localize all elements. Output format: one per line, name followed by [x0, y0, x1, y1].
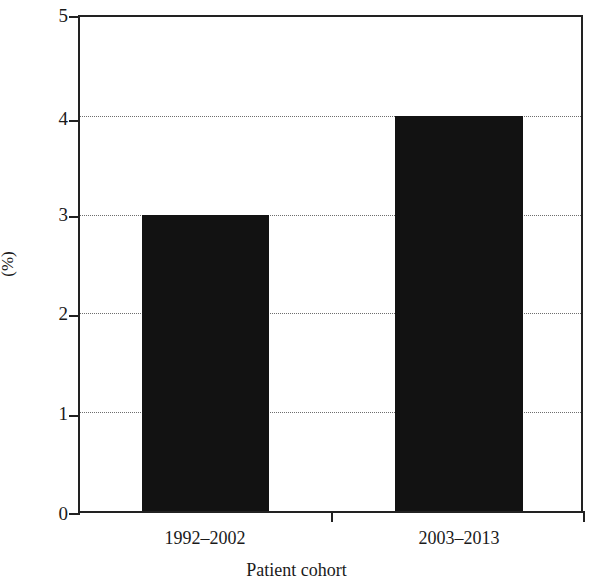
bar-1992-2002 [142, 215, 269, 511]
y-axis-tick-label-3: 3 [28, 205, 68, 224]
y-axis-tick-label-5: 5 [28, 6, 68, 25]
x-axis-category-label-1: 1992–2002 [130, 528, 280, 548]
y-axis-title: (%) [0, 234, 17, 294]
y-axis-tick-label-0: 0 [28, 504, 68, 523]
y-axis-tick-2 [69, 315, 80, 317]
x-axis-tick-right [583, 511, 585, 522]
x-axis-category-label-2: 2003–2013 [383, 528, 535, 548]
bar-chart-figure: 5 4 3 2 1 0 (%) 1992–2002 2003–2013 Pati… [0, 0, 593, 585]
x-axis-tick-middle [331, 511, 333, 522]
y-axis-tick-0 [69, 513, 80, 515]
y-axis-tick-3 [69, 216, 80, 218]
x-axis-title: Patient cohort [0, 560, 593, 580]
plot-area [78, 15, 583, 513]
y-axis-tick-label-1: 1 [28, 404, 68, 423]
y-axis-tick-1 [69, 415, 80, 417]
y-axis-tick-label-4: 4 [28, 109, 68, 128]
bar-2003-2013 [395, 116, 523, 511]
y-axis-tick-label-2: 2 [28, 304, 68, 323]
y-axis-tick-5 [69, 16, 80, 18]
y-axis-tick-4 [69, 120, 80, 122]
